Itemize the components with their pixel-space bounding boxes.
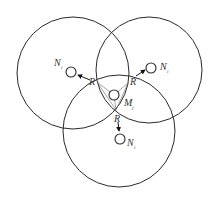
label-radius-right: R	[129, 76, 136, 87]
label-node-bottom-sub: i	[134, 145, 136, 150]
node-center	[109, 90, 119, 100]
node-bottom	[115, 134, 125, 144]
node-right	[146, 63, 156, 73]
arrow-right	[136, 70, 145, 76]
label-radius-bottom: R	[113, 113, 120, 124]
node-left	[66, 67, 76, 77]
label-radius-left: R	[88, 76, 95, 87]
label-node-right-sub: i	[167, 69, 169, 74]
label-node-left-sub: i	[61, 65, 63, 70]
coverage-diagram: N i N i N i M j R R R	[0, 0, 214, 198]
label-node-center-sub: j	[131, 105, 134, 110]
